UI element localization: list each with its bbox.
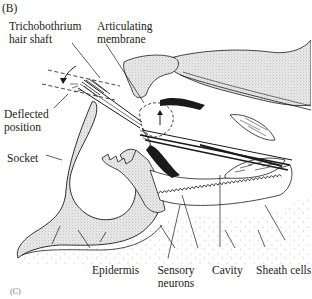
label-epidermis: Epidermis [92, 264, 139, 277]
sensory-neurons-bundle [140, 98, 292, 178]
cavity-region [150, 158, 292, 205]
label-cavity: Cavity [212, 264, 243, 277]
label-sensory: Sensory [156, 264, 196, 277]
label-trichobothrium: Trichobothrium [9, 20, 81, 33]
label-socket: Socket [7, 152, 38, 165]
cuticle-upper [170, 40, 311, 110]
label-position: position [4, 121, 41, 134]
next-panel-label: (C) [10, 286, 21, 299]
deflected-hair [42, 66, 120, 100]
label-neurons: neurons [154, 277, 198, 290]
label-articulating: Articulating [97, 20, 153, 33]
cuticle-lump [124, 55, 179, 98]
panel-label: (B) [2, 2, 17, 15]
label-membrane: membrane [97, 33, 146, 46]
up-arrow-icon [157, 110, 163, 115]
deflection-arrow-icon [60, 78, 67, 84]
label-hair-shaft: hair shaft [9, 33, 52, 46]
label-sheath-cells: Sheath cells [256, 264, 311, 277]
label-deflected: Deflected [4, 108, 49, 121]
